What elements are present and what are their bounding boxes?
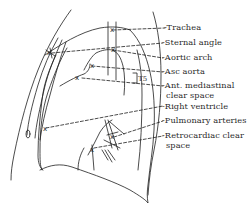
chest-wall-outer <box>11 10 71 180</box>
leader-lines <box>46 28 165 148</box>
diaphragm <box>40 165 148 203</box>
heart-inner-border <box>38 55 56 170</box>
label-trachea: -Trachea <box>164 23 201 32</box>
x-marker-sternal-angle: x <box>47 49 51 57</box>
x-marker-aortic-arch: x <box>111 46 115 54</box>
x-marker-retrocardiac: x <box>90 146 94 154</box>
x-marker-asc-aorta: x <box>90 62 94 70</box>
x-marker-ant-mediastinal: x <box>75 74 79 82</box>
pulmonary-artery-lines <box>102 120 124 162</box>
t5-label: T5 <box>138 75 147 83</box>
aortic-arch-curve <box>84 50 125 95</box>
label-ant-mediastinal-line2: clear space <box>166 91 214 100</box>
leader-aortic-arch <box>113 50 163 58</box>
x-marker-pulmonary-arteries: x <box>110 133 114 141</box>
leader-pulmonary-arteries <box>114 121 163 137</box>
sternum-oval <box>26 130 30 138</box>
leader-right-ventricle <box>46 106 163 128</box>
label-retrocardiac-line1: -Retrocardiac clear <box>162 131 244 140</box>
label-aortic-arch: -Aortic arch <box>162 53 212 62</box>
label-ant-mediastinal-line1: -Ant. mediastinal <box>162 81 234 90</box>
t5-bracket: T5 <box>133 73 147 83</box>
x-marker-trachea: x <box>110 26 114 34</box>
leader-sternal-angle <box>52 43 163 53</box>
label-asc-aorta: -Asc aorta <box>162 67 205 76</box>
label-right-ventricle: -Right ventricle <box>162 102 228 111</box>
leader-ant-mediastinal <box>82 78 163 86</box>
x-marker-right-ventricle: x <box>43 125 47 133</box>
label-retrocardiac-line2: space <box>166 141 190 150</box>
label-pulmonary-arteries: -Pulmonary arteries <box>162 116 247 125</box>
lateral-chest-diagram: T5 x x x x x x x x -Trachea -Sternal ang… <box>0 0 249 203</box>
label-sternal-angle: -Sternal angle <box>162 38 222 47</box>
leader-asc-aorta <box>92 66 163 72</box>
